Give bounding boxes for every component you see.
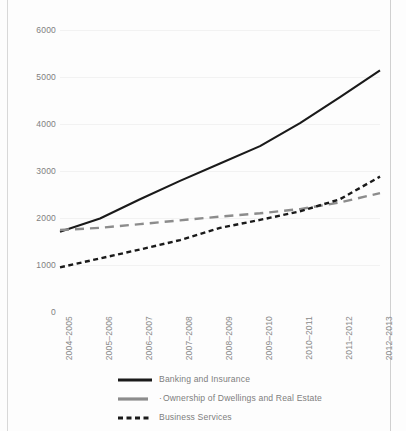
legend-swatch-icon (118, 374, 152, 385)
legend-label: Ownership of Dwellings and Real Estate (163, 393, 322, 403)
x-tick-label: 2006–2007 (144, 316, 154, 360)
legend-item[interactable]: Business Services (118, 409, 388, 425)
y-tick-label: 4000 (16, 119, 56, 129)
y-axis-labels: 0100020003000400050006000 (14, 30, 56, 312)
x-tick-label: 2011–2012 (344, 316, 354, 360)
x-tick-label: 2009–2010 (264, 316, 274, 360)
line-chart-figure: 0100020003000400050006000 2004–20052005–… (0, 0, 406, 431)
chart-legend: Banking and Insurance·Ownership of Dwell… (118, 371, 388, 428)
series-lines (60, 30, 380, 312)
legend-label: Banking and Insurance (159, 374, 250, 384)
y-tick-label: 0 (16, 307, 56, 317)
y-tick-label: 5000 (16, 72, 56, 82)
x-tick-label: 2008–2009 (224, 316, 234, 360)
x-tick-label: 2005–2006 (104, 316, 114, 360)
series-line (60, 70, 380, 231)
x-tick-label: 2004–2005 (64, 316, 74, 360)
x-tick-label: 2007–2008 (184, 316, 194, 360)
legend-marker-dot: · (159, 393, 162, 403)
x-tick-label: 2012–2013 (384, 316, 394, 360)
plot-area (60, 30, 380, 312)
legend-swatch-icon (118, 412, 152, 423)
legend-label: Business Services (159, 412, 232, 422)
x-tick-label: 2010–2011 (304, 316, 314, 360)
legend-item[interactable]: Banking and Insurance (118, 371, 388, 387)
y-tick-label: 1000 (16, 260, 56, 270)
y-tick-label: 3000 (16, 166, 56, 176)
series-line (60, 193, 380, 230)
series-line (60, 177, 380, 268)
legend-swatch-icon (118, 393, 152, 404)
y-tick-label: 2000 (16, 213, 56, 223)
y-tick-label: 6000 (16, 25, 56, 35)
x-axis-labels: 2004–20052005–20062006–20072007–20082008… (60, 316, 380, 376)
legend-item[interactable]: ·Ownership of Dwellings and Real Estate (118, 390, 388, 406)
